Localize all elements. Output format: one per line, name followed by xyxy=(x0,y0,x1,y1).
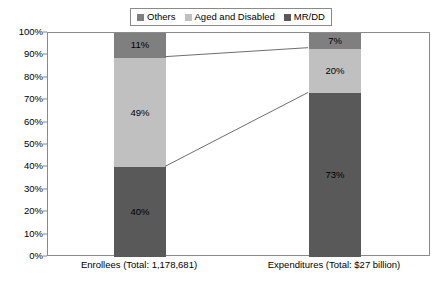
x-axis-label-expenditures: Expenditures (Total: $27 billion) xyxy=(268,259,401,270)
legend-item-mr-dd: MR/DD xyxy=(284,12,325,22)
y-tick-label: 10% xyxy=(24,229,43,239)
y-tick-label: 80% xyxy=(24,72,43,82)
bar-segment-mr-dd: 40% xyxy=(114,167,166,257)
bar-segment-others: 7% xyxy=(309,33,361,49)
chart-legend: Others Aged and Disabled MR/DD xyxy=(130,8,332,26)
y-tick-label: 100% xyxy=(19,27,43,37)
bar-segment-value-label: 40% xyxy=(130,207,149,217)
y-tick-label: 60% xyxy=(24,117,43,127)
bar-expenditures: 73%20%7% xyxy=(309,33,361,257)
y-tick-label: 0% xyxy=(29,251,43,261)
y-tick-label: 70% xyxy=(24,94,43,104)
y-tick-label: 40% xyxy=(24,161,43,171)
legend-swatch-aged-and-disabled xyxy=(185,14,192,21)
stacked-bar-chart: Others Aged and Disabled MR/DD 100%90%80… xyxy=(0,0,439,281)
bar-enrollees: 40%49%11% xyxy=(114,33,166,257)
y-axis: 100%90%80%70%60%50%40%30%20%10%0% xyxy=(0,32,43,256)
legend-label-others: Others xyxy=(147,12,176,22)
bar-segment-value-label: 11% xyxy=(131,40,149,50)
bar-segment-aged-and-disabled: 20% xyxy=(309,49,361,94)
legend-swatch-others xyxy=(137,14,144,21)
bar-segment-value-label: 49% xyxy=(130,108,149,118)
y-tick-label: 50% xyxy=(24,139,43,149)
legend-item-others: Others xyxy=(137,12,176,22)
bar-segment-value-label: 20% xyxy=(325,66,344,76)
legend-label-mr-dd: MR/DD xyxy=(294,12,325,22)
legend-label-aged-and-disabled: Aged and Disabled xyxy=(195,12,275,22)
bar-segment-aged-and-disabled: 49% xyxy=(114,58,166,168)
bar-segment-value-label: 7% xyxy=(328,36,342,46)
legend-swatch-mr-dd xyxy=(284,14,291,21)
x-axis-label-enrollees: Enrollees (Total: 1,178,681) xyxy=(81,259,197,270)
y-tick-label: 30% xyxy=(24,184,43,194)
bar-segment-value-label: 73% xyxy=(325,170,344,180)
bar-segment-mr-dd: 73% xyxy=(309,93,361,257)
y-tick-label: 90% xyxy=(24,49,43,59)
plot-area: 40%49%11% 73%20%7% xyxy=(47,32,430,256)
y-tick-label: 20% xyxy=(24,206,43,216)
bar-segment-others: 11% xyxy=(114,33,166,58)
legend-item-aged-and-disabled: Aged and Disabled xyxy=(185,12,275,22)
